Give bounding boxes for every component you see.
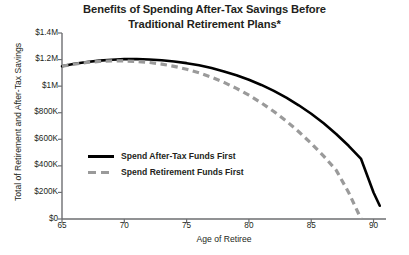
y-axis-tick-label: $200K [4, 187, 58, 196]
legend-label: Spend Retirement Funds First [121, 167, 244, 177]
x-axis-tick-label: 85 [291, 221, 331, 230]
y-axis-tick-label: $1M [4, 81, 58, 90]
legend-item: Spend After-Tax Funds First [88, 148, 298, 164]
x-axis-tick-label: 65 [42, 221, 82, 230]
x-axis-title: Age of Retiree [62, 234, 386, 244]
chart-figure: Benefits of Spending After-Tax Savings B… [0, 0, 409, 255]
y-axis-tick-label: $1.2M [4, 54, 58, 63]
legend-swatch-line [88, 171, 114, 174]
y-axis-tick-label: $800K [4, 107, 58, 116]
legend-label: Spend After-Tax Funds First [121, 151, 236, 161]
chart-title: Benefits of Spending After-Tax Savings B… [0, 2, 409, 31]
legend-item: Spend Retirement Funds First [88, 164, 298, 180]
y-axis-tick-label: $600K [4, 134, 58, 143]
chart-title-line-1: Benefits of Spending After-Tax Savings B… [0, 2, 409, 17]
y-axis-tick-label: $1.4M [4, 28, 58, 37]
x-axis-tick-label: 90 [354, 221, 394, 230]
legend-swatch-line [88, 155, 114, 158]
legend-swatch-solid [88, 151, 114, 162]
series-line-1 [62, 59, 380, 206]
chart-legend: Spend After-Tax Funds FirstSpend Retirem… [88, 148, 298, 180]
x-axis-tick-label: 75 [167, 221, 207, 230]
y-axis-tick-label: $400K [4, 160, 58, 169]
chart-axes [0, 0, 409, 255]
series-line-2 [62, 61, 361, 219]
legend-swatch-dashed [88, 167, 114, 178]
y-axis-tick-labels: $0$200K$400K$600K$800K$1M$1.2M$1.4M [0, 0, 58, 255]
chart-title-line-2: Traditional Retirement Plans* [0, 17, 409, 32]
x-axis-tick-label: 70 [104, 221, 144, 230]
x-axis-tick-label: 80 [229, 221, 269, 230]
